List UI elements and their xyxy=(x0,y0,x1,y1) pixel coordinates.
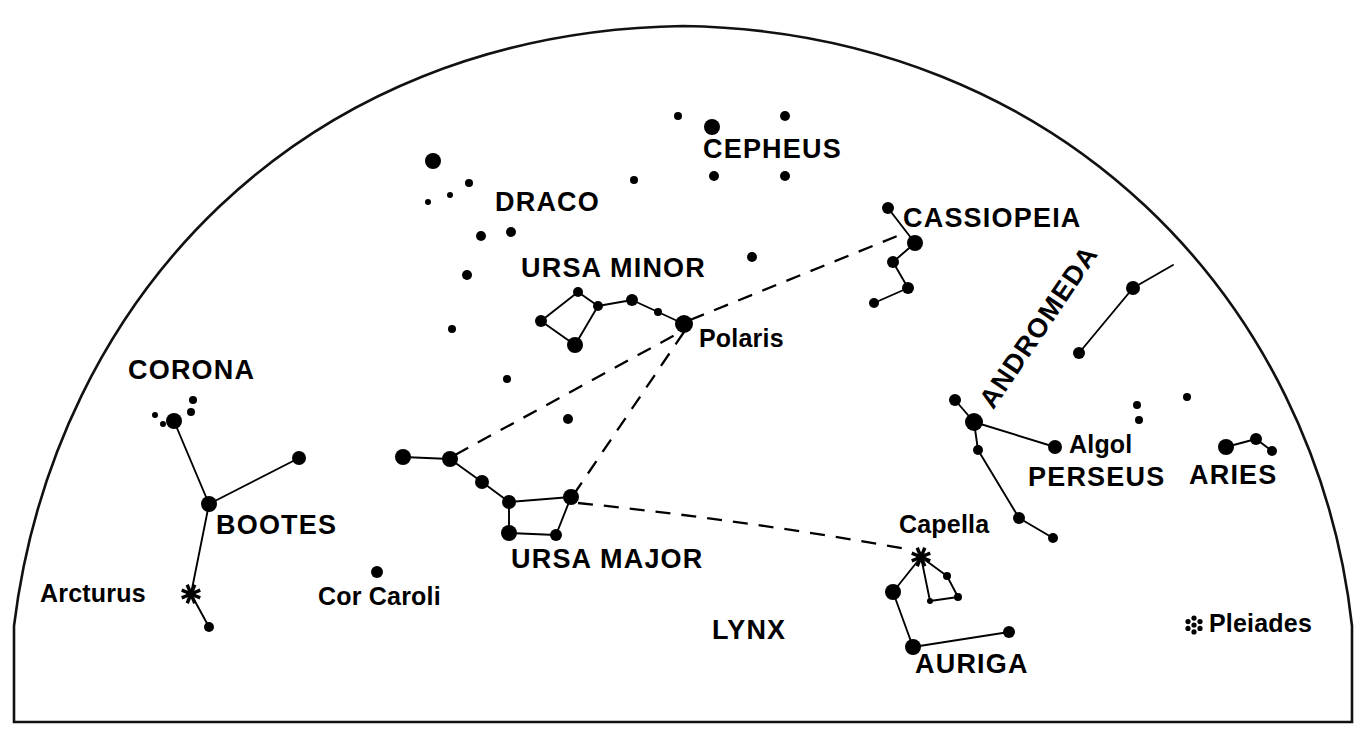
sky-label-capella: Capella xyxy=(899,512,989,537)
star-andromeda-an2 xyxy=(1073,347,1085,359)
field-star-and-field-1 xyxy=(1133,401,1141,409)
star-cassiopeia-ca2 xyxy=(907,235,923,251)
constellation-line-auriga xyxy=(930,597,958,601)
sky-label-auriga: AURIGA xyxy=(915,651,1029,678)
constellation-line-perseus xyxy=(974,422,1055,447)
star-perseus-pe5 xyxy=(1013,512,1025,524)
star-ursa-minor-um5 xyxy=(626,294,638,306)
field-star-cepheus-3 xyxy=(780,111,790,121)
sky-label-ursa-minor: URSA MINOR xyxy=(521,255,706,282)
constellation-line-andromeda xyxy=(1079,288,1133,353)
pointer-dipper-to-capella xyxy=(578,503,912,550)
field-star-and-field-2 xyxy=(1135,416,1143,424)
star-corona-co1 xyxy=(166,413,182,429)
star-cassiopeia-ca5 xyxy=(869,298,879,308)
field-star-cor-caroli xyxy=(371,566,383,578)
sky-label-arcturus: Arcturus xyxy=(40,581,146,606)
star-corona-co3 xyxy=(160,421,166,427)
sky-label-corona: CORONA xyxy=(128,357,255,384)
field-star-cepheus-6 xyxy=(630,176,638,184)
constellation-line-ursa-minor xyxy=(541,292,578,321)
pointer-polaris-to-dipper-bowl xyxy=(572,332,684,497)
star-aries-ar2 xyxy=(1250,433,1262,445)
star-ursa-major-uj2 xyxy=(442,451,458,467)
star-ursa-major-uj7 xyxy=(501,525,517,541)
star-corona-co2 xyxy=(152,412,158,418)
sky-label-cepheus: CEPHEUS xyxy=(703,136,842,163)
constellation-line-perseus xyxy=(978,450,1019,518)
constellation-line-bootes xyxy=(209,458,299,504)
constellation-line-corona xyxy=(174,421,209,504)
sky-label-cassiopeia: CASSIOPEIA xyxy=(903,205,1082,232)
field-star-draco-4 xyxy=(425,199,431,205)
sky-label-algol: Algol xyxy=(1069,432,1133,457)
field-star-cepheus-5 xyxy=(780,171,790,181)
star-bootes-bo4 xyxy=(204,622,214,632)
star-andromeda-an1 xyxy=(1126,281,1140,295)
sky-label-aries: ARIES xyxy=(1189,462,1278,489)
cluster-dot xyxy=(1191,629,1196,634)
star-perseus-pe2 xyxy=(965,413,983,431)
cluster-pleiades-icon xyxy=(1185,615,1202,634)
star-auriga-au7 xyxy=(927,598,933,604)
constellation-line-auriga xyxy=(913,632,1009,647)
star-auriga-au2 xyxy=(885,584,901,600)
cluster-dot xyxy=(1191,622,1196,627)
cluster-dot xyxy=(1197,619,1202,624)
field-star-cepheus-2 xyxy=(704,119,720,135)
star-corona-co4 xyxy=(187,408,195,416)
constellation-line-bootes xyxy=(191,504,209,594)
star-auriga-au4 xyxy=(1003,626,1015,638)
star-ursa-major-uj3 xyxy=(475,475,489,489)
star-perseus-pe4 xyxy=(973,445,983,455)
stars-group xyxy=(152,111,1277,655)
field-star-draco-7 xyxy=(462,270,472,280)
field-star-draco-8 xyxy=(448,325,456,333)
cluster-dot xyxy=(1191,615,1196,620)
sky-label-cor-caroli: Cor Caroli xyxy=(318,584,441,609)
star-auriga-au6 xyxy=(954,593,962,601)
star-aries-ar3 xyxy=(1267,446,1277,456)
sky-label-perseus: PERSEUS xyxy=(1028,464,1165,491)
sky-label-draco: DRACO xyxy=(495,189,600,216)
constellation-line-auriga xyxy=(893,592,913,647)
star-ursa-minor-um6 xyxy=(654,308,662,316)
star-bootes-bo1 xyxy=(292,451,306,465)
field-star-draco-5 xyxy=(476,231,486,241)
sky-label-bootes: BOOTES xyxy=(216,512,337,539)
star-ursa-major-uj6 xyxy=(550,529,562,541)
star-cassiopeia-ca3 xyxy=(887,256,899,268)
cluster-dot xyxy=(1185,619,1190,624)
star-ursa-minor-polaris xyxy=(675,315,693,333)
sky-label-pleiades: Pleiades xyxy=(1209,611,1312,636)
sky-label-lynx: LYNX xyxy=(712,617,786,644)
field-star-draco-6 xyxy=(506,227,516,237)
cluster-glyphs-group xyxy=(1185,615,1202,634)
field-star-draco-3 xyxy=(447,192,453,198)
star-chart-figure: CEPHEUSDRACOCASSIOPEIAURSA MINORPolarisA… xyxy=(0,0,1366,747)
star-ursa-major-uj1 xyxy=(395,449,411,465)
sky-label-polaris: Polaris xyxy=(699,326,784,351)
star-cassiopeia-ca4 xyxy=(902,282,914,294)
field-star-draco-11 xyxy=(563,414,573,424)
constellation-line-ursa-major xyxy=(509,497,571,502)
field-star-cepheus-1 xyxy=(674,112,682,120)
star-corona-co5 xyxy=(189,396,197,404)
field-star-draco-1 xyxy=(425,153,441,169)
star-perseus-pe1 xyxy=(949,394,961,406)
field-star-cepheus-4 xyxy=(709,171,719,181)
star-bootes-bo2 xyxy=(201,496,217,512)
field-star-and-field-3 xyxy=(1183,393,1191,401)
star-perseus-pe3 xyxy=(1048,440,1062,454)
star-perseus-pe6 xyxy=(1048,533,1058,543)
sky-label-ursa-major: URSA MAJOR xyxy=(511,546,704,573)
field-star-draco-9 xyxy=(503,375,511,383)
star-ursa-minor-um4 xyxy=(593,301,603,311)
bright-star-capella-icon xyxy=(912,548,930,566)
star-ursa-minor-um3 xyxy=(567,337,583,353)
star-auriga-au5 xyxy=(943,572,951,580)
star-ursa-major-uj5 xyxy=(563,489,579,505)
cluster-dot xyxy=(1197,626,1202,631)
field-star-umi-field xyxy=(747,252,757,262)
star-cassiopeia-ca1 xyxy=(882,202,894,214)
